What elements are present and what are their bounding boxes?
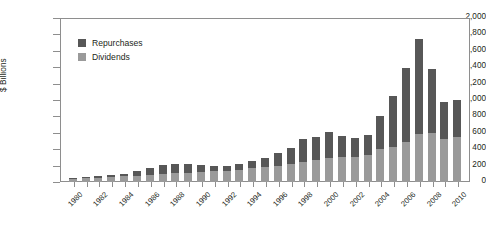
x-tick-mark xyxy=(317,182,318,187)
x-tick-mark xyxy=(164,182,165,187)
x-tick-mark xyxy=(87,182,88,187)
bar-segment-dividends xyxy=(146,175,154,182)
legend-swatch xyxy=(78,53,86,61)
bar-column xyxy=(159,19,167,182)
bar-column xyxy=(402,19,410,182)
bar-column xyxy=(351,19,359,182)
x-tick-label: 1992 xyxy=(210,190,238,218)
x-tick-mark xyxy=(433,182,434,187)
bar-segment-repurchases xyxy=(428,69,436,133)
x-tick-mark xyxy=(74,182,75,187)
y-tick-mark xyxy=(53,100,60,101)
bar-segment-dividends xyxy=(159,174,167,182)
bar-segment-dividends xyxy=(453,137,461,182)
bar-segment-repurchases xyxy=(248,161,256,168)
x-tick-mark xyxy=(253,182,254,187)
x-tick-label: 2010 xyxy=(441,190,469,218)
bar-column xyxy=(248,19,256,182)
x-tick-label: 1980 xyxy=(57,190,85,218)
bar-segment-repurchases xyxy=(351,138,359,157)
bar-segment-repurchases xyxy=(69,178,77,179)
bar-column xyxy=(261,19,269,182)
bar-segment-repurchases xyxy=(146,168,154,175)
y-tick-mark xyxy=(53,18,60,19)
x-tick-mark xyxy=(240,182,241,187)
x-tick-mark xyxy=(228,182,229,187)
x-tick-mark xyxy=(266,182,267,187)
bar-segment-dividends xyxy=(210,171,218,182)
y-tick-mark xyxy=(53,84,60,85)
bar-column xyxy=(389,19,397,182)
bar-segment-repurchases xyxy=(223,166,231,171)
x-tick-mark xyxy=(138,182,139,187)
bar-segment-dividends xyxy=(351,157,359,182)
x-tick-mark xyxy=(279,182,280,187)
bar-segment-repurchases xyxy=(274,153,282,166)
bar-column xyxy=(235,19,243,182)
bar-column xyxy=(146,19,154,182)
bar-segment-dividends xyxy=(440,139,448,182)
bar-segment-repurchases xyxy=(338,136,346,157)
bar-segment-repurchases xyxy=(261,158,269,167)
bar-segment-repurchases xyxy=(389,96,397,147)
bar-segment-dividends xyxy=(325,158,333,182)
x-tick-mark xyxy=(420,182,421,187)
bar-column xyxy=(184,19,192,182)
bar-segment-dividends xyxy=(274,166,282,182)
x-tick-mark xyxy=(381,182,382,187)
bar-column xyxy=(325,19,333,182)
bar-column xyxy=(210,19,218,182)
x-tick-mark xyxy=(407,182,408,187)
y-tick-mark xyxy=(53,34,60,35)
x-tick-label: 1996 xyxy=(262,190,290,218)
bar-segment-repurchases xyxy=(82,177,90,178)
bar-column xyxy=(299,19,307,182)
bar-column xyxy=(287,19,295,182)
bar-segment-dividends xyxy=(287,164,295,182)
bar-segment-dividends xyxy=(376,149,384,182)
bar-column xyxy=(171,19,179,182)
x-tick-label: 1994 xyxy=(236,190,264,218)
bar-segment-dividends xyxy=(338,157,346,182)
y-tick-mark xyxy=(53,149,60,150)
bar-segment-dividends xyxy=(248,168,256,182)
bar-segment-dividends xyxy=(402,142,410,182)
bar-segment-repurchases xyxy=(197,165,205,172)
x-tick-mark xyxy=(330,182,331,187)
y-tick-mark xyxy=(53,116,60,117)
x-tick-mark xyxy=(176,182,177,187)
bar-segment-repurchases xyxy=(159,165,167,174)
bar-segment-dividends xyxy=(389,147,397,182)
bar-segment-dividends xyxy=(364,155,372,182)
x-tick-label: 1990 xyxy=(185,190,213,218)
x-tick-mark xyxy=(125,182,126,187)
x-tick-mark xyxy=(304,182,305,187)
bar-column xyxy=(364,19,372,182)
legend-item: Repurchases xyxy=(78,37,143,49)
x-tick-mark xyxy=(189,182,190,187)
x-tick-mark xyxy=(112,182,113,187)
bar-segment-repurchases xyxy=(402,68,410,142)
chart-legend: RepurchasesDividends xyxy=(78,37,143,65)
x-tick-label: 1986 xyxy=(133,190,161,218)
legend-label: Dividends xyxy=(92,52,130,62)
x-tick-mark xyxy=(215,182,216,187)
x-tick-mark xyxy=(292,182,293,187)
y-tick-mark xyxy=(53,67,60,68)
bar-segment-dividends xyxy=(299,162,307,182)
bar-segment-repurchases xyxy=(376,116,384,149)
bar-segment-repurchases xyxy=(453,100,461,137)
legend-item: Dividends xyxy=(78,51,143,63)
bar-segment-repurchases xyxy=(287,148,295,164)
bar-segment-repurchases xyxy=(325,132,333,158)
bar-segment-repurchases xyxy=(312,137,320,161)
x-tick-mark xyxy=(394,182,395,187)
y-axis-title: $ Billions xyxy=(0,12,8,92)
x-tick-label: 2006 xyxy=(390,190,418,218)
bar-column xyxy=(415,19,423,182)
x-tick-mark xyxy=(99,182,100,187)
x-tick-mark xyxy=(202,182,203,187)
y-tick-mark xyxy=(53,133,60,134)
bar-segment-repurchases xyxy=(120,174,128,177)
bar-column xyxy=(338,19,346,182)
